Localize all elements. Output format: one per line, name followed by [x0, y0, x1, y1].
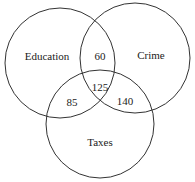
region-education-crime: 60: [95, 50, 107, 62]
region-crime-taxes: 140: [117, 95, 134, 107]
label-taxes: Taxes: [87, 136, 113, 148]
circle-education: [5, 8, 115, 118]
label-crime: Crime: [137, 49, 165, 61]
label-education: Education: [25, 50, 70, 62]
region-education-taxes: 85: [67, 96, 79, 108]
venn-diagram: Education Crime Taxes 60 125 85 140: [0, 0, 195, 182]
region-all-three: 125: [92, 81, 109, 93]
